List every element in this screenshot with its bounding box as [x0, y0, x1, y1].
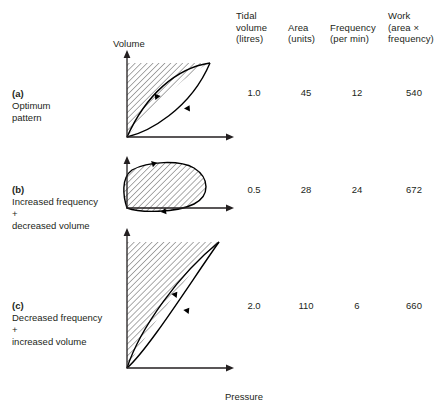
row-marker-a: (a) — [12, 88, 24, 99]
cell-b-frequency: 24 — [329, 184, 385, 195]
row-marker-c: (c) — [12, 300, 24, 311]
loop-diagram-c — [118, 228, 234, 380]
cell-b-tidal-volume: 0.5 — [231, 184, 277, 195]
row-label-c-text: Decreased frequency + increased volume — [12, 312, 102, 347]
flow-arrow-expiration-c — [183, 306, 192, 314]
row-label-b-text: Increased frequency + decreased volume — [12, 196, 98, 231]
hatch-region-b — [118, 156, 234, 218]
x-axis-arrowhead-b — [226, 205, 234, 212]
column-header-work: Work (area × frequency) — [388, 10, 442, 45]
column-header-tidal-volume: Tidal volume (litres) — [236, 10, 282, 45]
flow-arrow-expiration-a — [184, 104, 193, 112]
cell-b-work: 672 — [386, 184, 442, 195]
column-header-area: Area (units) — [288, 22, 330, 45]
cell-a-work: 540 — [386, 87, 442, 98]
x-axis-arrowhead-a — [226, 134, 234, 141]
cell-c-tidal-volume: 2.0 — [231, 300, 277, 311]
cell-a-frequency: 12 — [329, 87, 385, 98]
y-axis-arrowhead-c — [124, 228, 131, 236]
cell-a-area: 45 — [285, 87, 327, 98]
cell-c-frequency: 6 — [329, 300, 385, 311]
row-marker-b: (b) — [12, 184, 24, 195]
x-axis-label: Pressure — [225, 391, 263, 402]
row-label-a: (a) Optimum pattern — [12, 76, 122, 124]
y-axis-arrowhead-a — [124, 50, 131, 58]
row-label-a-text: Optimum pattern — [12, 100, 51, 123]
cell-b-area: 28 — [285, 184, 327, 195]
loop-diagram-b — [118, 156, 234, 218]
row-label-c: (c) Decreased frequency + increased volu… — [12, 288, 132, 348]
y-axis-arrowhead-b — [124, 156, 131, 164]
column-header-frequency: Frequency (per min) — [330, 22, 388, 45]
cell-a-tidal-volume: 1.0 — [231, 87, 277, 98]
loop-diagram-a — [118, 50, 234, 150]
row-label-b: (b) Increased frequency + decreased volu… — [12, 172, 132, 232]
cell-c-work: 660 — [386, 300, 442, 311]
cell-c-area: 110 — [285, 300, 327, 311]
y-axis-label: Volume — [113, 38, 145, 49]
pressure-volume-loop-figure: Tidal volume (litres) Area (units) Frequ… — [0, 0, 442, 407]
x-axis-arrowhead-c — [226, 365, 234, 372]
